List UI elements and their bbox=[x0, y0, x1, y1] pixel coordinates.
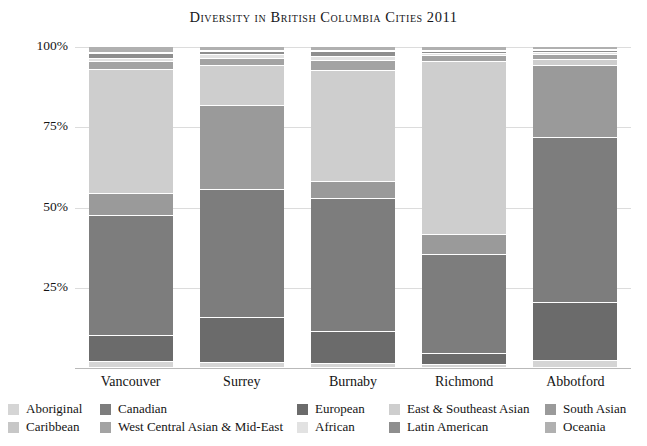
y-tick-label-50: 50% bbox=[8, 200, 68, 214]
bar-segment[interactable] bbox=[311, 61, 395, 71]
bar-segment[interactable] bbox=[200, 106, 284, 189]
x-tick-label-vancouver: Vancouver bbox=[75, 374, 186, 390]
legend-label: Oceania bbox=[563, 418, 606, 435]
bar-segment[interactable] bbox=[311, 182, 395, 199]
bar-segment[interactable] bbox=[311, 57, 395, 62]
bar-segment[interactable] bbox=[422, 255, 506, 355]
legend-label: South Asian bbox=[563, 400, 626, 417]
x-tick-label-richmond: Richmond bbox=[409, 374, 520, 390]
legend-swatch-icon bbox=[100, 422, 111, 433]
legend-swatch-icon bbox=[389, 422, 400, 433]
legend-label: African bbox=[315, 418, 355, 435]
bar-segment[interactable] bbox=[200, 52, 284, 55]
bar-segment[interactable] bbox=[200, 190, 284, 318]
chart-legend: AboriginalCaribbeanCanadianWest Central … bbox=[0, 400, 647, 444]
bar-segment[interactable] bbox=[422, 62, 506, 235]
bar-segment[interactable] bbox=[311, 52, 395, 56]
y-tick-label-25: 25% bbox=[8, 280, 68, 294]
bar-segment[interactable] bbox=[89, 53, 173, 54]
bar-segment[interactable] bbox=[533, 361, 617, 368]
legend-swatch-icon bbox=[8, 404, 19, 415]
x-tick-label-burnaby: Burnaby bbox=[297, 374, 408, 390]
chart-title: Diversity in British Columbia Cities 201… bbox=[0, 9, 647, 26]
bar-segment[interactable] bbox=[89, 336, 173, 362]
bar-segment[interactable] bbox=[311, 47, 395, 51]
bar-segment[interactable] bbox=[200, 47, 284, 51]
bar-segment[interactable] bbox=[422, 56, 506, 62]
bar-segment[interactable] bbox=[533, 55, 617, 59]
bar-segment[interactable] bbox=[200, 51, 284, 52]
bar-segment[interactable] bbox=[200, 59, 284, 66]
legend-label: Canadian bbox=[118, 400, 167, 417]
y-axis-tick-labels: 25%50%75%100% bbox=[0, 47, 68, 368]
x-axis-baseline bbox=[75, 368, 631, 369]
bar-segment[interactable] bbox=[311, 71, 395, 182]
bar-segment[interactable] bbox=[311, 364, 395, 368]
legend-swatch-icon bbox=[100, 404, 111, 415]
legend-label: East & Southeast Asian bbox=[407, 400, 529, 417]
bar-segment[interactable] bbox=[422, 354, 506, 365]
bar-segment[interactable] bbox=[533, 66, 617, 138]
bar-segment[interactable] bbox=[311, 199, 395, 332]
bar-abbotford[interactable] bbox=[533, 47, 617, 368]
bar-segment[interactable] bbox=[89, 59, 173, 62]
bar-segment[interactable] bbox=[311, 332, 395, 364]
legend-label: Aboriginal bbox=[26, 400, 82, 417]
bar-segment[interactable] bbox=[89, 70, 173, 194]
bar-segment[interactable] bbox=[533, 53, 617, 55]
bar-segment[interactable] bbox=[200, 55, 284, 59]
bar-segment[interactable] bbox=[422, 235, 506, 254]
legend-label: Latin American bbox=[407, 418, 488, 435]
legend-swatch-icon bbox=[8, 422, 19, 433]
bar-segment[interactable] bbox=[422, 47, 506, 51]
x-tick-label-surrey: Surrey bbox=[186, 374, 297, 390]
bar-segment[interactable] bbox=[533, 303, 617, 361]
bar-segment[interactable] bbox=[311, 51, 395, 52]
bar-vancouver[interactable] bbox=[89, 47, 173, 368]
legend-swatch-icon bbox=[545, 404, 556, 415]
legend-swatch-icon bbox=[297, 422, 308, 433]
bar-segment[interactable] bbox=[200, 363, 284, 368]
y-tick-label-75: 75% bbox=[8, 119, 68, 133]
bar-segment[interactable] bbox=[533, 60, 617, 66]
legend-swatch-icon bbox=[545, 422, 556, 433]
bar-segment[interactable] bbox=[89, 47, 173, 53]
bar-segment[interactable] bbox=[422, 51, 506, 52]
legend-label: West Central Asian & Mid-East bbox=[118, 418, 283, 435]
y-tick-label-100: 100% bbox=[8, 39, 68, 53]
bar-segment[interactable] bbox=[89, 216, 173, 336]
bar-segment[interactable] bbox=[89, 62, 173, 70]
bar-segment[interactable] bbox=[422, 365, 506, 368]
x-tick-label-abbotford: Abbotford bbox=[520, 374, 631, 390]
bar-segment[interactable] bbox=[533, 138, 617, 303]
bar-segment[interactable] bbox=[89, 362, 173, 368]
legend-swatch-icon bbox=[389, 404, 400, 415]
bar-segment[interactable] bbox=[200, 318, 284, 363]
bar-burnaby[interactable] bbox=[311, 47, 395, 368]
bar-surrey[interactable] bbox=[200, 47, 284, 368]
bar-segment[interactable] bbox=[422, 54, 506, 56]
bar-richmond[interactable] bbox=[422, 47, 506, 368]
plot-area bbox=[75, 47, 631, 368]
bar-segment[interactable] bbox=[89, 54, 173, 58]
legend-swatch-icon bbox=[297, 404, 308, 415]
bar-segment[interactable] bbox=[422, 52, 506, 54]
chart-figure: Diversity in British Columbia Cities 201… bbox=[0, 0, 647, 446]
bar-segment[interactable] bbox=[200, 66, 284, 106]
legend-label: Caribbean bbox=[26, 418, 79, 435]
bar-segment[interactable] bbox=[533, 51, 617, 54]
bar-segment[interactable] bbox=[533, 47, 617, 50]
bar-segment[interactable] bbox=[533, 50, 617, 51]
bar-segment[interactable] bbox=[89, 194, 173, 216]
legend-label: European bbox=[315, 400, 365, 417]
